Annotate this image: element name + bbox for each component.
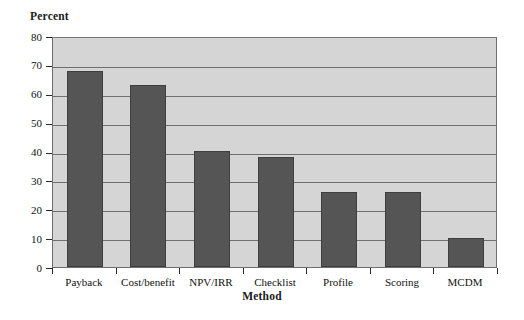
x-tick-mark [497, 268, 498, 274]
bar [385, 192, 421, 267]
y-tick-label: 30 [18, 176, 42, 187]
y-tick-label: 80 [18, 32, 42, 43]
gridline [53, 125, 496, 126]
x-tick-mark [179, 268, 180, 274]
x-tick-label: Profile [306, 277, 370, 288]
x-tick-mark [306, 268, 307, 274]
bar [258, 157, 294, 267]
x-tick-mark [52, 268, 53, 274]
gridline [53, 96, 496, 97]
gridline [53, 67, 496, 68]
y-tick-label: 0 [18, 263, 42, 274]
x-tick-mark [243, 268, 244, 274]
x-axis-title: Method [0, 290, 524, 302]
x-tick-label: Scoring [370, 277, 434, 288]
y-tick-label: 60 [18, 89, 42, 100]
x-tick-label: NPV/IRR [179, 277, 243, 288]
x-tick-mark [433, 268, 434, 274]
y-tick-mark [46, 66, 52, 67]
y-tick-mark [46, 239, 52, 240]
bar [194, 151, 230, 267]
y-tick-mark [46, 153, 52, 154]
y-tick-mark [46, 210, 52, 211]
y-tick-label: 20 [18, 205, 42, 216]
x-tick-label: Cost/benefit [116, 277, 180, 288]
y-tick-mark [46, 124, 52, 125]
y-tick-label: 70 [18, 60, 42, 71]
bar [321, 192, 357, 267]
bar [448, 238, 484, 267]
x-tick-label: Checklist [243, 277, 307, 288]
y-tick-mark [46, 181, 52, 182]
y-tick-mark [46, 95, 52, 96]
y-tick-label: 10 [18, 234, 42, 245]
bar [67, 71, 103, 267]
x-tick-mark [116, 268, 117, 274]
gridline [53, 154, 496, 155]
y-tick-label: 50 [18, 118, 42, 129]
x-tick-mark [370, 268, 371, 274]
y-tick-label: 40 [18, 147, 42, 158]
x-tick-label: MCDM [433, 277, 497, 288]
x-tick-label: Payback [52, 277, 116, 288]
plot-area [52, 37, 497, 268]
y-axis-title: Percent [30, 10, 69, 22]
plot-inner [53, 38, 496, 267]
y-tick-mark [46, 37, 52, 38]
bar [130, 85, 166, 267]
bar-chart-figure: Percent 80706050403020100 PaybackCost/be… [0, 0, 524, 320]
